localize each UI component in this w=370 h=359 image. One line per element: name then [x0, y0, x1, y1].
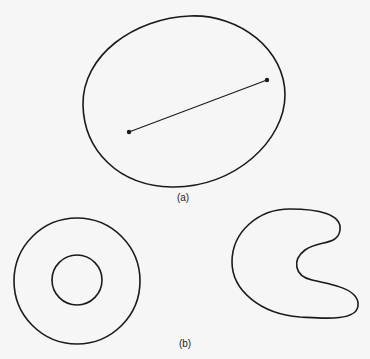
point-a-left	[127, 130, 131, 134]
kidney-region	[232, 209, 358, 318]
annulus-inner-circle	[52, 255, 102, 305]
point-a-right	[265, 78, 269, 82]
line-segment	[129, 80, 267, 132]
convex-region	[83, 16, 285, 187]
figure-canvas	[0, 0, 370, 359]
panel-b-label: (b)	[179, 338, 191, 349]
annulus-outer-circle	[14, 218, 140, 344]
panel-a-label: (a)	[177, 192, 189, 203]
